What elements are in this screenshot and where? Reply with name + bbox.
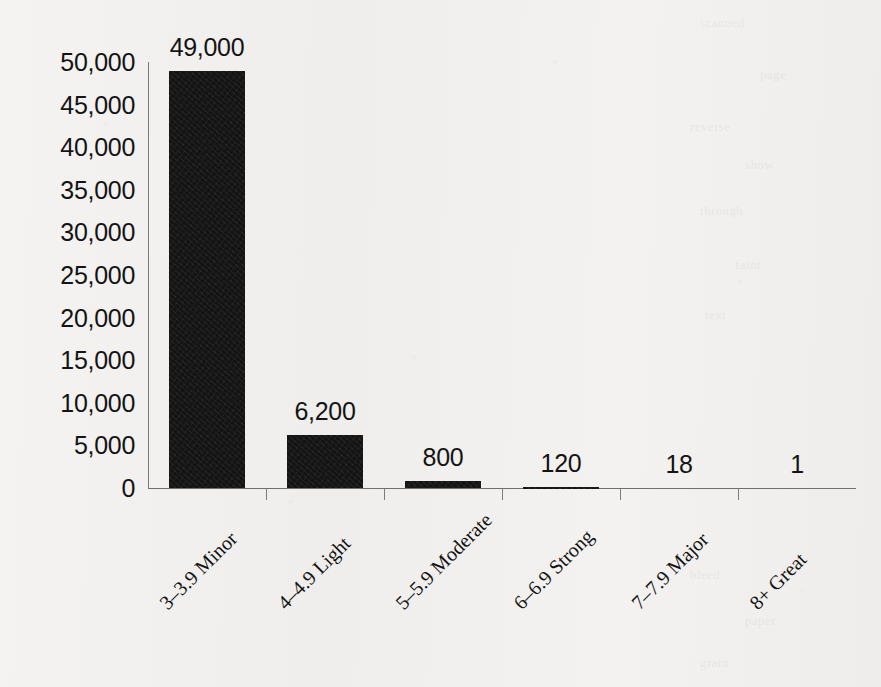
bar-value-label: 800	[423, 443, 464, 472]
x-axis-tick-mark	[384, 489, 385, 500]
x-axis-tick-mark	[502, 489, 503, 500]
bar	[169, 71, 245, 488]
x-axis-category-label: 6–6.9 Strong	[509, 525, 598, 614]
y-axis-tick-label: 10,000	[15, 388, 135, 417]
y-axis-tick-label: 0	[15, 474, 135, 503]
bar-value-label: 18	[665, 450, 692, 479]
bar	[287, 435, 363, 488]
bar-value-label: 1	[790, 450, 804, 479]
x-axis-tick-mark	[266, 489, 267, 500]
y-axis-tick-label: 45,000	[15, 90, 135, 119]
x-axis-tick-mark	[620, 489, 621, 500]
y-axis-tick-label: 20,000	[15, 303, 135, 332]
bar	[405, 481, 481, 488]
y-axis-tick-label: 15,000	[15, 346, 135, 375]
x-axis-category-label: 7–7.9 Major	[627, 528, 713, 614]
x-axis-tick-mark	[738, 489, 739, 500]
y-axis-line	[148, 62, 149, 489]
bar-chart: 05,00010,00015,00020,00025,00030,00035,0…	[0, 0, 881, 687]
bar	[523, 487, 599, 489]
bar-value-label: 120	[541, 449, 582, 478]
x-axis-category-label: 5–5.9 Moderate	[391, 508, 497, 614]
x-axis-category-label: 4–4.9 Light	[273, 532, 355, 614]
y-axis-tick-label: 40,000	[15, 133, 135, 162]
y-axis-tick-label: 50,000	[15, 48, 135, 77]
x-axis-category-label: 8+ Great	[745, 548, 811, 614]
x-axis-category-label: 3–3.9 Minor	[155, 527, 242, 614]
bar-value-label: 6,200	[294, 397, 355, 426]
y-axis-tick-label: 25,000	[15, 261, 135, 290]
y-axis-tick-label: 30,000	[15, 218, 135, 247]
bar-value-label: 49,000	[170, 33, 245, 62]
y-axis-tick-label: 5,000	[15, 431, 135, 460]
y-axis-tick-label: 35,000	[15, 175, 135, 204]
